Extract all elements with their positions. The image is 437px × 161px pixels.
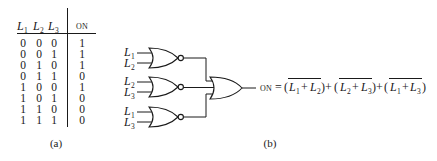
inverter-bubble-icon: [178, 114, 183, 119]
nor-gate-1: L 1 L 2: [123, 45, 214, 81]
formula-term-3: ( L 1 + L 3 ): [384, 79, 426, 96]
inverter-bubble-icon: [178, 84, 183, 89]
header-var: L: [47, 19, 55, 33]
cell: 1: [20, 114, 26, 126]
table-row: 1 1 1 0: [20, 114, 85, 126]
term-sub: 2: [347, 87, 351, 96]
header-var: L: [32, 19, 40, 33]
nor-gate-3: L 1 L 3: [123, 94, 214, 131]
input-label: L: [123, 115, 131, 129]
formula-term-2: ( L 2 + L 3 ): [334, 79, 376, 96]
plus-sign: +: [376, 80, 383, 94]
nor-gate-icon: [149, 77, 178, 97]
term-sub: 3: [417, 87, 421, 96]
input-sub: 3: [131, 122, 135, 131]
plus-sign: +: [352, 80, 359, 94]
term-var: L: [389, 80, 397, 94]
logic-circuit: L 1 L 2 L 2 L 3 L 1 L 3: [123, 45, 426, 150]
cell: 1: [36, 114, 42, 126]
output-equation: ON = ( L 1 + L 2 ) + ( L 2 + L 3: [260, 79, 426, 96]
term-sub: 1: [296, 87, 300, 96]
term-var: L: [339, 80, 347, 94]
paren-open: (: [284, 80, 288, 94]
equation-lhs: ON: [260, 84, 272, 93]
or-gate: [210, 77, 256, 99]
input-sub: 1: [131, 52, 135, 61]
nor-gate-icon: [149, 107, 178, 127]
term-var: L: [309, 80, 317, 94]
input-sub: 3: [131, 92, 135, 101]
or-gate-icon: [210, 77, 242, 99]
plus-sign: +: [402, 80, 409, 94]
header-var: L: [16, 19, 24, 33]
formula-term-1: ( L 1 + L 2 ): [284, 79, 325, 96]
paren-open: (: [384, 80, 388, 94]
wire: [183, 58, 214, 81]
input-label: L: [123, 85, 131, 99]
inverter-bubble-icon: [178, 55, 183, 60]
term-var: L: [409, 80, 417, 94]
caption-b: (b): [264, 137, 277, 150]
term-var: L: [288, 80, 296, 94]
plus-sign: +: [301, 80, 308, 94]
term-var: L: [360, 80, 368, 94]
input-sub: 2: [131, 81, 135, 90]
paren-close: ): [422, 80, 426, 94]
term-sub: 1: [397, 87, 401, 96]
nor-gate-2: L 2 L 3: [123, 74, 215, 101]
cell: 1: [51, 114, 57, 126]
truth-table: L 1 L 2 L 3 ON 0 0 0 1 0 0 1 1 0 1 0 1: [16, 8, 96, 150]
input-sub: 2: [131, 63, 135, 72]
input-label: L: [123, 56, 131, 70]
equals-sign: =: [275, 80, 282, 94]
caption-a: (a): [50, 137, 63, 150]
nor-gate-icon: [149, 48, 178, 68]
cell-output: 0: [79, 114, 85, 126]
paren-open: (: [334, 80, 338, 94]
wire: [183, 94, 214, 117]
header-on: ON: [76, 22, 88, 31]
table-header: L 1 L 2 L 3 ON: [16, 19, 88, 35]
input-sub: 1: [131, 111, 135, 120]
plus-sign: +: [325, 80, 332, 94]
figure: L 1 L 2 L 3 ON 0 0 0 1 0 0 1 1 0 1 0 1: [0, 0, 437, 161]
